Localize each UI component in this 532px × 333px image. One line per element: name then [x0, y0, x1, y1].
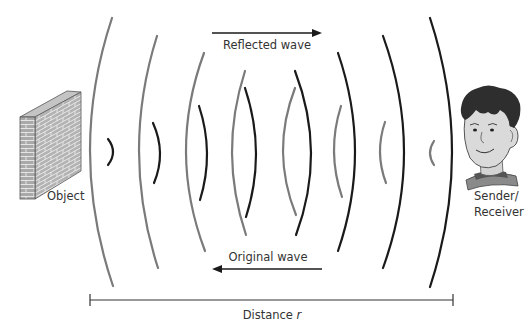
object-label: Object	[47, 189, 84, 203]
original-wave-arc-5	[295, 71, 311, 235]
reflected-wave-arrow	[212, 29, 322, 37]
original-wave-arc-1	[108, 139, 113, 165]
reflected-wave-arc-2	[139, 36, 158, 268]
reflected-wave-arc-3	[186, 53, 205, 251]
reflected-wave-arcs	[90, 18, 434, 286]
original-wave-arcs	[108, 18, 452, 287]
original-wave-arc-3	[199, 106, 207, 200]
distance-label: Distance r	[243, 308, 302, 322]
sender-label: Sender/	[474, 189, 519, 203]
original-wave-arc-7	[383, 36, 404, 268]
reflected-wave-arc-7	[380, 122, 386, 183]
reflected-wave-arc-4	[232, 71, 246, 235]
echo-diagram: Object Sender/ Receiver Reflected wave O…	[0, 0, 532, 333]
brick-wall-icon	[20, 91, 81, 199]
reflected-wave-arc-6	[334, 106, 342, 197]
original-wave-arc-2	[153, 123, 160, 183]
original-wave-arc-6	[338, 53, 355, 251]
original-wave-arrow	[212, 265, 322, 273]
original-wave-arc-8	[430, 18, 452, 287]
arrowhead-left-icon	[212, 265, 222, 273]
reflected-wave-label: Reflected wave	[223, 38, 311, 52]
wall-front-face	[20, 117, 35, 199]
original-wave-label: Original wave	[229, 250, 308, 264]
reflected-wave-arc-8	[430, 141, 434, 165]
reflected-wave-arc-1	[90, 18, 113, 286]
distance-variable: r	[297, 308, 302, 322]
reflected-wave-arc-5	[283, 88, 296, 215]
arrowhead-right-icon	[312, 29, 322, 37]
distance-dimension-line	[90, 294, 453, 306]
receiver-label: Receiver	[474, 205, 524, 219]
original-wave-arc-4	[245, 88, 256, 217]
person-icon	[461, 86, 521, 191]
distance-label-text: Distance	[243, 308, 297, 322]
